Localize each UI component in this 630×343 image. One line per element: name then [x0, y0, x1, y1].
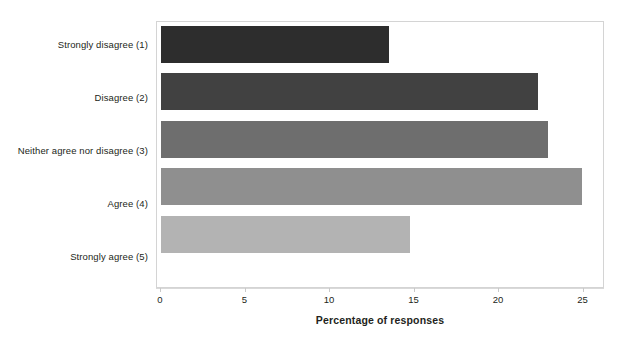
category-label: Strongly agree (5)	[70, 251, 148, 262]
category-label: Disagree (2)	[95, 92, 148, 103]
x-axis-tick	[414, 288, 415, 292]
bar-strongly-disagree	[161, 26, 389, 63]
x-axis-line	[156, 288, 604, 289]
x-axis-tick-label: 25	[577, 294, 588, 305]
x-axis-tick-label: 20	[493, 294, 504, 305]
category-label: Strongly disagree (1)	[58, 39, 148, 50]
x-axis-tick	[245, 288, 246, 292]
category-label: Agree (4)	[107, 198, 148, 209]
plot-area	[156, 21, 604, 288]
x-axis-tick	[498, 288, 499, 292]
bar-chart-figure: Strongly disagree (1) Disagree (2) Neith…	[0, 0, 630, 343]
category-axis: Strongly disagree (1) Disagree (2) Neith…	[0, 21, 152, 288]
x-axis-tick-label: 10	[324, 294, 335, 305]
x-axis-tick	[329, 288, 330, 292]
x-axis-tick-label: 5	[242, 294, 247, 305]
category-label: Neither agree nor disagree (3)	[18, 145, 148, 156]
bar-neither-agree-nor-disagree	[161, 121, 548, 158]
x-axis-tick	[583, 288, 584, 292]
bar-strongly-agree	[161, 216, 410, 253]
bars-container	[157, 22, 603, 287]
x-axis-tick-label: 15	[408, 294, 419, 305]
x-axis-title: Percentage of responses	[156, 314, 604, 326]
bar-disagree	[161, 73, 538, 110]
x-axis: 0 5 10 15 20 25	[156, 288, 604, 314]
x-axis-tick	[160, 288, 161, 292]
bar-agree	[161, 168, 582, 205]
x-axis-tick-label: 0	[157, 294, 162, 305]
